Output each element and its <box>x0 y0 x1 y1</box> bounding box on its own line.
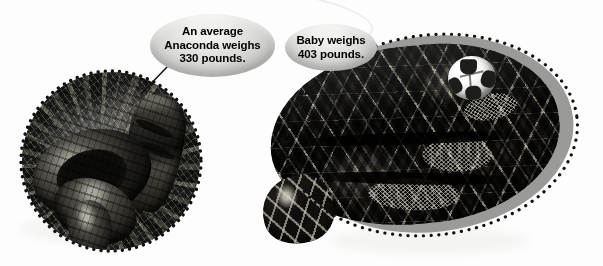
callout-baby-weight[interactable]: Baby weighs 403 pounds. <box>285 24 377 71</box>
leaf-litter-shadow-texture <box>22 72 200 250</box>
anaconda-circle-photo <box>22 72 200 250</box>
callout-anaconda-text: An average Anaconda weighs 330 pounds. <box>164 25 260 66</box>
callout-line: Baby weighs <box>296 34 365 48</box>
callout-line: An average <box>164 25 260 39</box>
figure-stage: An average Anaconda weighs 330 pounds. B… <box>0 0 603 266</box>
callout-line: 403 pounds. <box>296 48 365 62</box>
callout-anaconda-weight[interactable]: An average Anaconda weighs 330 pounds. <box>150 14 275 77</box>
callout-line: Anaconda weighs <box>164 39 260 53</box>
ball-pentagon <box>465 85 482 100</box>
callout-line: 330 pounds. <box>164 52 260 66</box>
callout-baby-text: Baby weighs 403 pounds. <box>296 34 365 61</box>
